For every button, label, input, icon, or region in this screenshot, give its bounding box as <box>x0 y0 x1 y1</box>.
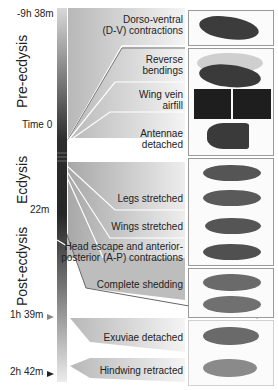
image-panel-reverse-bendings <box>188 48 274 156</box>
stage-label-dv-contractions: Dorso-ventral (D-V) contractions <box>102 14 183 36</box>
stage-label-legs-stretched: Legs stretched <box>117 193 183 204</box>
time-label-start: -9h 38m <box>17 8 54 19</box>
wing-vein-image-left <box>194 89 231 119</box>
insect-image <box>203 274 261 291</box>
stage-label-exuviae-detached: Exuviae detached <box>103 332 183 343</box>
stage-label-antennae-detached: Antennae detached <box>140 128 183 150</box>
stage-label-wing-vein-airfill: Wing vein airfill <box>139 89 183 111</box>
time-label-22m: 22m <box>30 204 49 215</box>
timeline-bar <box>57 8 67 382</box>
image-panel-dv-contractions <box>188 10 274 46</box>
time-label-2h42m: 2h 42m <box>10 366 43 377</box>
image-panel-ecdysis <box>188 158 274 266</box>
wing-vein-image-right <box>233 89 271 119</box>
arrow-marker-icon <box>47 314 54 320</box>
stage-label-head-escape: Head escape and anterior- posterior (A-P… <box>61 241 183 263</box>
insect-image <box>203 190 261 206</box>
stage-label-reverse-bendings: Reverse bendings <box>142 54 183 76</box>
insect-image <box>203 165 261 181</box>
stage-label-hindwing-retracted: Hindwing retracted <box>100 365 183 376</box>
insect-image <box>205 218 261 234</box>
phase-label-ecdysis: Ecdysis <box>14 156 30 204</box>
time-label-1h39m: 1h 39m <box>10 309 43 320</box>
arrow-marker-icon <box>47 371 54 377</box>
time-label-zero: Time 0 <box>22 119 52 130</box>
stage-label-wings-stretched: Wings stretched <box>111 221 183 232</box>
insect-image <box>203 244 261 260</box>
image-panel-post-ecdysis <box>188 320 274 386</box>
insect-image <box>203 327 259 345</box>
insect-image <box>203 359 257 377</box>
phase-label-pre-ecdysis: Pre-ecdysis <box>14 35 30 108</box>
insect-image <box>207 123 249 149</box>
stage-label-complete-shedding: Complete shedding <box>97 279 183 290</box>
insect-image <box>203 296 261 313</box>
phase-label-post-ecdysis: Post-ecdysis <box>14 227 30 306</box>
image-panel-complete-shedding <box>188 268 274 318</box>
insect-image <box>198 13 260 43</box>
